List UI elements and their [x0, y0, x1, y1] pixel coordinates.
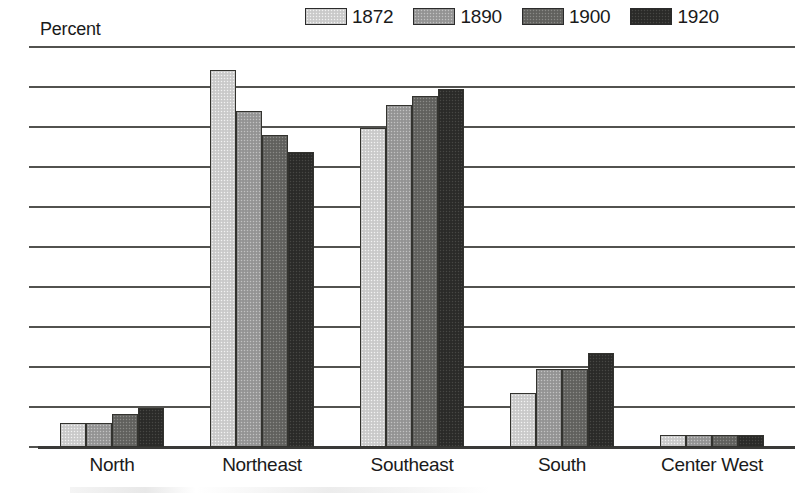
y-tick-mark-50 — [29, 46, 38, 48]
bar-northeast-1900 — [262, 135, 288, 447]
legend-label-1900: 1900 — [569, 7, 610, 26]
legend-label-1890: 1890 — [460, 7, 501, 26]
legend-swatch-1872 — [305, 8, 347, 25]
bar-centerwest-1890 — [686, 435, 712, 447]
bar-northeast-1872 — [210, 70, 236, 447]
bar-northeast-1920 — [288, 152, 314, 447]
bar-centerwest-1872 — [660, 435, 686, 447]
scan-artifact — [70, 487, 490, 493]
bar-group-centerwest — [660, 47, 764, 447]
legend-label-1872: 1872 — [352, 7, 393, 26]
legend-swatch-1920 — [630, 8, 672, 25]
y-axis-title: Percent — [40, 20, 101, 38]
x-axis-label-centerwest: Center West — [622, 455, 802, 474]
bar-centerwest-1920 — [738, 435, 764, 447]
bar-southeast-1872 — [360, 128, 386, 447]
bar-south-1920 — [588, 353, 614, 447]
y-tick-mark-15 — [29, 326, 38, 328]
bar-group-north — [60, 47, 164, 447]
y-tick-mark-45 — [29, 86, 38, 88]
legend-entry-1872: 1872 — [305, 7, 393, 26]
bar-north-1900 — [112, 414, 138, 447]
y-tick-mark-35 — [29, 166, 38, 168]
bar-group-south — [510, 47, 614, 447]
bar-southeast-1890 — [386, 105, 412, 447]
chart-legend: 1872 1890 1900 1920 — [305, 4, 719, 28]
y-tick-mark-25 — [29, 246, 38, 248]
bar-north-1872 — [60, 423, 86, 447]
bar-south-1890 — [536, 369, 562, 447]
legend-swatch-1900 — [522, 8, 564, 25]
legend-label-1920: 1920 — [677, 7, 718, 26]
bar-southeast-1900 — [412, 96, 438, 447]
bar-south-1900 — [562, 369, 588, 447]
legend-swatch-1890 — [413, 8, 455, 25]
y-tick-mark-5 — [29, 406, 38, 408]
bar-group-southeast — [360, 47, 464, 447]
legend-entry-1900: 1900 — [522, 7, 610, 26]
y-tick-mark-10 — [29, 366, 38, 368]
y-tick-mark-20 — [29, 286, 38, 288]
bar-northeast-1890 — [236, 111, 262, 447]
bar-group-northeast — [210, 47, 314, 447]
bar-north-1890 — [86, 423, 112, 447]
y-tick-mark-40 — [29, 126, 38, 128]
bar-north-1920 — [138, 408, 164, 447]
bar-centerwest-1900 — [712, 435, 738, 447]
plot-area: 05101520253035404550 — [38, 47, 795, 447]
legend-entry-1920: 1920 — [630, 7, 718, 26]
bar-south-1872 — [510, 393, 536, 447]
bar-southeast-1920 — [438, 89, 464, 447]
legend-entry-1890: 1890 — [413, 7, 501, 26]
y-tick-mark-30 — [29, 206, 38, 208]
y-tick-mark-0 — [29, 446, 38, 448]
bar-chart-figure: 1872 1890 1900 1920 Percent 051015202530… — [0, 0, 807, 497]
